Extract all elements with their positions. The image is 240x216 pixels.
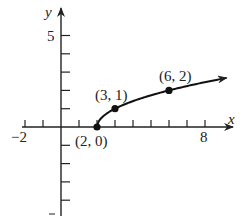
y-axis-label: y (43, 4, 52, 20)
data-point (165, 87, 172, 94)
data-point (93, 123, 100, 130)
labeled-points: (2, 0)(3, 1)(6, 2) (75, 68, 192, 150)
y-tick-label: 5 (47, 28, 55, 44)
point-label: (2, 0) (75, 133, 108, 150)
x-axis-label: x (227, 111, 235, 127)
x-tick-label: −2 (11, 129, 27, 145)
axes: −285 (11, 8, 233, 216)
data-point (111, 105, 118, 112)
x-tick-label: 8 (200, 129, 208, 145)
point-label: (3, 1) (95, 87, 128, 104)
function-graph: −285 (2, 0)(3, 1)(6, 2) x y (0, 0, 240, 216)
point-label: (6, 2) (159, 68, 192, 85)
